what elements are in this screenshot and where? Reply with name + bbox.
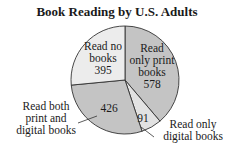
label-digital: Read only digital books: [160, 118, 226, 142]
label-print: Read only print books 578: [127, 42, 177, 90]
label-none: Read no books 395: [80, 40, 126, 76]
value-digital: 91: [135, 112, 151, 124]
value-both: 426: [96, 102, 122, 114]
label-both: Read both print and digital books: [14, 100, 78, 136]
